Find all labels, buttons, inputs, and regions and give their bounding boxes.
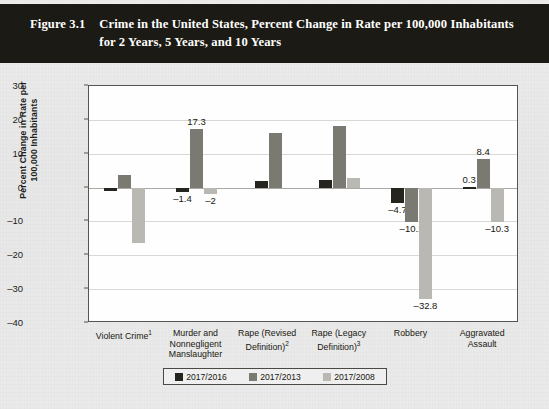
- legend-label-2017-2008: 2017/2008: [334, 372, 375, 382]
- bar: [491, 188, 504, 223]
- y-axis-tick-label: 30: [0, 80, 23, 91]
- footnote-marker: 3: [357, 340, 361, 347]
- gridline: [89, 120, 517, 121]
- zero-line: [89, 188, 517, 189]
- bar: [190, 129, 203, 188]
- gridline: [89, 221, 517, 222]
- figure-number: Figure 3.1: [30, 15, 85, 33]
- chart-container: Percent Change in Rate per 100,000 Inhab…: [0, 63, 549, 409]
- bar: [204, 188, 217, 195]
- bar: [132, 188, 145, 244]
- bar: [269, 133, 282, 187]
- y-axis-tick-label: –20: [0, 249, 23, 260]
- bar-value-label: 0.3: [463, 174, 476, 185]
- plot-area: –1.417.3–2–4.7–10.1–32.80.38.4–10.3: [88, 85, 518, 322]
- bar: [347, 178, 360, 187]
- footnote-marker: 2: [285, 340, 289, 347]
- bar: [419, 188, 432, 299]
- bar: [104, 188, 117, 191]
- figure-header: Figure 3.1 Crime in the United States, P…: [0, 4, 549, 63]
- y-axis-tick-label: 10: [0, 147, 23, 158]
- bar-value-label: –10.3: [485, 223, 509, 234]
- legend-label-2017-2016: 2017/2016: [186, 372, 227, 382]
- gridline: [89, 289, 517, 290]
- y-axis-tick-label: 20: [0, 113, 23, 124]
- y-axis-tick-label: –30: [0, 283, 23, 294]
- bar: [118, 175, 131, 188]
- gridline: [89, 255, 517, 256]
- bar: [255, 181, 268, 187]
- chart-legend: 2017/2016 2017/2013 2017/2008: [163, 368, 387, 385]
- x-axis-category-label: Aggravated Assault: [438, 328, 526, 349]
- bar: [391, 188, 404, 204]
- y-axis-tick-label: 0: [0, 181, 23, 192]
- legend-item: 2017/2013: [249, 372, 301, 382]
- gridline: [89, 154, 517, 155]
- legend-swatch-2017-2016: [175, 373, 183, 381]
- bar-value-label: 17.3: [187, 116, 206, 127]
- bar: [176, 188, 189, 193]
- bar: [333, 126, 346, 188]
- figure-title: Crime in the United States, Percent Chan…: [99, 15, 523, 51]
- bar-value-label: –4.7: [388, 204, 407, 215]
- legend-swatch-2017-2013: [249, 373, 257, 381]
- y-axis-tick-label: –40: [0, 317, 23, 328]
- bar-value-label: –32.8: [414, 300, 438, 311]
- bar: [319, 180, 332, 187]
- legend-swatch-2017-2008: [323, 373, 331, 381]
- y-axis-tick-label: –10: [0, 215, 23, 226]
- legend-label-2017-2013: 2017/2013: [260, 372, 301, 382]
- bar-value-label: –2: [205, 195, 216, 206]
- legend-item: 2017/2008: [323, 372, 375, 382]
- legend-item: 2017/2016: [175, 372, 227, 382]
- bar: [405, 188, 418, 222]
- bar-value-label: –1.4: [173, 193, 192, 204]
- bar: [477, 159, 490, 187]
- bar: [463, 187, 476, 190]
- bar-value-label: 8.4: [477, 146, 490, 157]
